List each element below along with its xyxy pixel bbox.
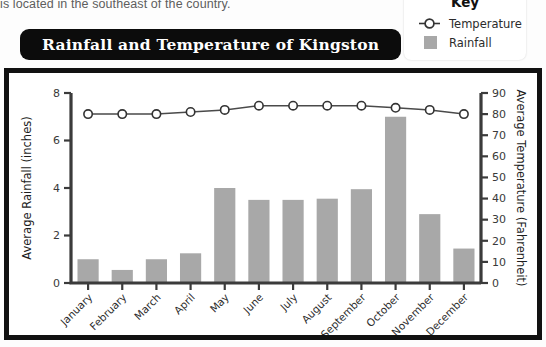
- chart-title: Rainfall and Temperature of Kingston: [42, 35, 379, 54]
- temperature-point-july: [289, 101, 297, 109]
- left-tick-label-2: 2: [53, 229, 60, 242]
- right-tick-label-0: 0: [492, 277, 499, 290]
- temperature-point-december: [460, 110, 468, 118]
- x-tick-label-august: August: [299, 291, 333, 325]
- chart-title-banner: Rainfall and Temperature of Kingston: [20, 29, 401, 60]
- circle-marker-icon: [417, 17, 443, 31]
- right-tick-label-30: 30: [492, 213, 506, 226]
- rainfall-temperature-chart: 02468Average Rainfall (inches)0102030405…: [9, 73, 537, 335]
- right-axis-title: Average Temperature (Fahrenheit): [514, 89, 528, 286]
- chart-card: 02468Average Rainfall (inches)0102030405…: [4, 68, 542, 340]
- temperature-point-january: [84, 110, 92, 118]
- temperature-point-october: [391, 104, 399, 112]
- temperature-point-november: [426, 106, 434, 114]
- key-label-temperature: Temperature: [449, 17, 522, 31]
- bar-july: [282, 200, 303, 283]
- bar-april: [180, 253, 201, 283]
- page-body-text: is located in the southeast of the count…: [0, 0, 380, 11]
- right-tick-label-80: 80: [492, 108, 506, 121]
- x-tick-label-march: March: [132, 291, 163, 322]
- left-axis-title: Average Rainfall (inches): [20, 116, 34, 259]
- key-item-rainfall: Rainfall: [404, 33, 526, 52]
- key-item-temperature: Temperature: [404, 14, 526, 33]
- right-tick-label-10: 10: [492, 256, 506, 269]
- left-tick-label-6: 6: [53, 134, 60, 147]
- bar-october: [385, 117, 406, 283]
- bar-june: [248, 200, 269, 283]
- chart-page: is located in the southeast of the count…: [0, 0, 546, 347]
- left-tick-label-0: 0: [53, 277, 60, 290]
- x-tick-label-june: June: [240, 291, 265, 316]
- bar-march: [146, 259, 167, 283]
- bar-november: [419, 214, 440, 283]
- key-label-rainfall: Rainfall: [449, 36, 492, 50]
- temperature-point-may: [221, 106, 229, 114]
- gray-square-icon: [417, 36, 443, 50]
- plot-area: 02468Average Rainfall (inches)0102030405…: [9, 73, 537, 335]
- bar-february: [112, 270, 133, 283]
- temperature-line: [88, 106, 464, 114]
- chart-key: Key Temperature Rainfall: [404, 0, 526, 60]
- x-tick-label-july: July: [277, 291, 300, 314]
- x-tick-label-may: May: [207, 291, 231, 315]
- right-tick-label-90: 90: [492, 87, 506, 100]
- bar-december: [453, 249, 474, 283]
- right-tick-label-40: 40: [492, 192, 506, 205]
- temperature-point-february: [118, 110, 126, 118]
- bar-august: [317, 199, 338, 283]
- right-tick-label-50: 50: [492, 171, 506, 184]
- temperature-point-april: [186, 108, 194, 116]
- right-tick-label-20: 20: [492, 235, 506, 248]
- bar-september: [351, 189, 372, 283]
- temperature-point-june: [255, 101, 263, 109]
- bar-january: [77, 259, 98, 283]
- temperature-point-march: [152, 110, 160, 118]
- x-tick-label-april: April: [172, 291, 197, 316]
- right-tick-label-70: 70: [492, 129, 506, 142]
- left-tick-label-8: 8: [53, 87, 60, 100]
- temperature-point-september: [357, 101, 365, 109]
- bar-may: [214, 188, 235, 283]
- left-tick-label-4: 4: [53, 182, 60, 195]
- key-heading: Key: [404, 0, 526, 10]
- x-tick-label-february: February: [87, 291, 128, 332]
- temperature-point-august: [323, 101, 331, 109]
- right-tick-label-60: 60: [492, 150, 506, 163]
